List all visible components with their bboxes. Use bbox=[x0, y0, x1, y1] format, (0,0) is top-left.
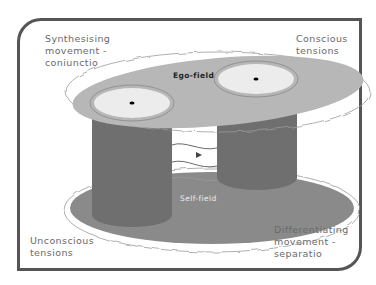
label-conscious-tensions: Conscious tensions bbox=[296, 33, 348, 57]
left-cylinder-top bbox=[90, 85, 174, 121]
label-synthesising-movement: Synthesising movement - coniunctio bbox=[45, 33, 110, 69]
label-differentiating-movement: Differentiating movement - separatio bbox=[274, 224, 349, 260]
right-cylinder-top bbox=[214, 61, 298, 97]
left-cylinder bbox=[92, 115, 172, 227]
label-ego-field: Ego-field bbox=[173, 70, 214, 82]
label-unconscious-tensions: Unconscious tensions bbox=[30, 235, 94, 259]
label-self-field: Self-field bbox=[180, 193, 217, 205]
